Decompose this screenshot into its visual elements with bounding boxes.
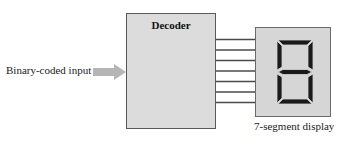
segment-e: [277, 74, 282, 103]
decoder-output-lines: [216, 40, 255, 103]
decoder-title: Decoder: [127, 19, 215, 31]
segment-d: [278, 99, 312, 104]
segment-f: [277, 41, 282, 70]
input-arrow-icon: [93, 64, 126, 80]
segment-g: [278, 70, 312, 75]
seven-segment-display: [255, 27, 331, 117]
segment-a: [278, 40, 312, 45]
seven-segment-display-label: 7-segment display: [254, 120, 334, 132]
segment-c: [308, 74, 313, 103]
decoder-block: Decoder: [126, 13, 216, 129]
seven-segment-digit-icon: [256, 28, 332, 118]
segment-b: [308, 41, 313, 70]
decoder-diagram: Binary-coded input Decoder: [0, 0, 344, 143]
